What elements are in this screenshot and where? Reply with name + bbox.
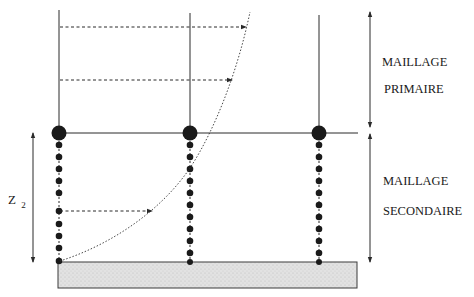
- secondary-label-line2: SECONDAIRE: [383, 204, 463, 218]
- secondary-label-line1: MAILLAGE: [383, 174, 449, 188]
- primary-label-line1: MAILLAGE: [382, 55, 448, 69]
- substrate-block: [58, 262, 357, 288]
- z-symbol: Z: [8, 192, 16, 207]
- velocity-profile-curve: [60, 12, 250, 261]
- velocity-arrows: [60, 27, 246, 211]
- primary-node-left: [52, 126, 67, 141]
- primary-label-line2: PRIMAIRE: [384, 82, 444, 96]
- z-subscript: 2: [21, 200, 26, 210]
- primary-node-middle: [183, 126, 198, 141]
- mesh-diagram: MAILLAGE PRIMAIRE MAILLAGE SECONDAIRE Z …: [0, 0, 474, 297]
- secondary-nodes: [56, 142, 323, 265]
- primary-mesh-columns: [59, 10, 319, 133]
- z2-label: Z 2: [8, 192, 26, 210]
- primary-node-right: [312, 126, 327, 141]
